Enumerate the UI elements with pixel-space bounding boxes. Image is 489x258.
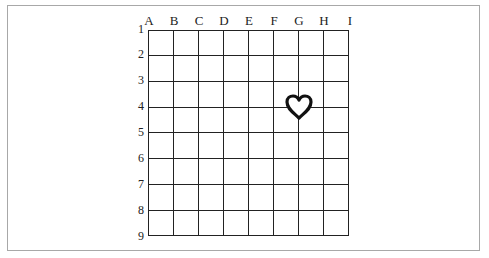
grid-line-horizontal bbox=[148, 210, 349, 211]
row-label-4: 4 bbox=[134, 99, 144, 114]
column-label-h: H bbox=[317, 13, 331, 29]
grid-line-vertical bbox=[323, 30, 324, 236]
row-label-2: 2 bbox=[134, 47, 144, 62]
column-label-e: E bbox=[242, 13, 256, 29]
grid-line-vertical bbox=[273, 30, 274, 236]
grid-line-horizontal bbox=[148, 55, 349, 56]
heart-outline-icon bbox=[284, 93, 314, 121]
column-label-b: B bbox=[167, 13, 181, 29]
row-label-9: 9 bbox=[134, 229, 144, 244]
grid-line-horizontal bbox=[148, 184, 349, 185]
grid-line-horizontal bbox=[148, 158, 349, 159]
row-label-7: 7 bbox=[134, 177, 144, 192]
row-label-1: 1 bbox=[134, 22, 144, 37]
grid-line-horizontal bbox=[148, 132, 349, 133]
coordinate-grid bbox=[148, 30, 349, 236]
row-label-5: 5 bbox=[134, 125, 144, 140]
grid-line-horizontal bbox=[148, 235, 349, 236]
grid-line-vertical bbox=[148, 30, 149, 236]
grid-line-horizontal bbox=[148, 30, 349, 31]
grid-line-horizontal bbox=[148, 107, 349, 108]
grid-line-vertical bbox=[223, 30, 224, 236]
grid-line-vertical bbox=[173, 30, 174, 236]
column-label-d: D bbox=[217, 13, 231, 29]
grid-line-vertical bbox=[348, 30, 349, 236]
row-label-3: 3 bbox=[134, 73, 144, 88]
column-label-a: A bbox=[142, 13, 156, 29]
column-label-f: F bbox=[267, 13, 281, 29]
grid-line-vertical bbox=[248, 30, 249, 236]
column-label-g: G bbox=[292, 13, 306, 29]
row-label-6: 6 bbox=[134, 151, 144, 166]
grid-line-vertical bbox=[198, 30, 199, 236]
column-label-i: I bbox=[343, 13, 357, 29]
row-label-8: 8 bbox=[134, 203, 144, 218]
column-label-c: C bbox=[192, 13, 206, 29]
grid-line-horizontal bbox=[148, 81, 349, 82]
grid-line-vertical bbox=[298, 30, 299, 236]
